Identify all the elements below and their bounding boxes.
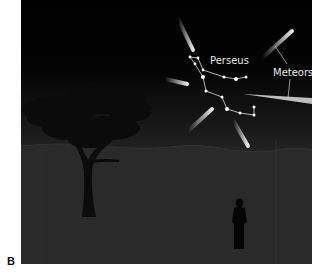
hills [21, 144, 312, 264]
meteors-label: Meteors [273, 67, 312, 78]
perseus-label: Perseus [210, 55, 249, 66]
panel-label: B [7, 255, 15, 267]
meteor-shower-illustration: Perseus Meteors [21, 0, 312, 264]
